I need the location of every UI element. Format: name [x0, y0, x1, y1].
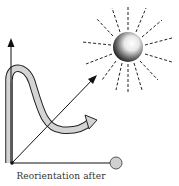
sun-icon: [113, 32, 143, 62]
target-circle: [110, 157, 122, 169]
reorientation-diagram: [0, 0, 179, 186]
figure-caption: Reorientation after: [0, 171, 122, 181]
diagonal-arrow: [12, 79, 93, 163]
origin-dot: [10, 161, 14, 165]
reorientation-path-arrow: [9, 68, 90, 163]
vertical-arrowhead-icon: [8, 38, 15, 47]
